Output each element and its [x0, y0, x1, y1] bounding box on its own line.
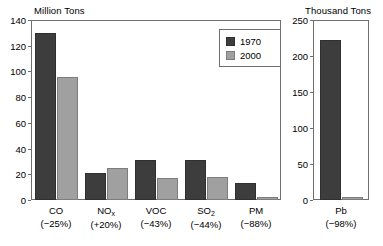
category-change: (−44%)	[181, 219, 231, 232]
category-label-VOC: VOC(−43%)	[131, 205, 181, 230]
y-tick-mark	[310, 20, 313, 21]
y-tick-mark	[310, 128, 313, 129]
y-tick-label: 100	[284, 123, 308, 134]
bar-CO-1970	[35, 33, 56, 200]
y-tick-label: 140	[2, 15, 26, 26]
category-change: (+20%)	[81, 219, 131, 232]
bar-NOx-2000	[107, 168, 128, 200]
category-change: (−88%)	[231, 218, 281, 231]
category-name: SO2	[181, 205, 231, 219]
category-label-CO: CO(−25%)	[31, 205, 81, 230]
y-tick-mark	[28, 97, 31, 98]
y-tick-label: 60	[2, 117, 26, 128]
category-change: (−43%)	[131, 218, 181, 231]
category-label-Pb: Pb(−98%)	[313, 205, 369, 230]
legend-swatch-2000-icon	[226, 51, 235, 60]
bar-Pb-1970	[320, 40, 341, 200]
emissions-chart-figure: Million Tons 020406080100120140 CO(−25%)…	[0, 0, 383, 246]
y-tick-mark	[310, 92, 313, 93]
y-tick-mark	[28, 20, 31, 21]
legend-item-1970: 1970	[226, 34, 280, 48]
y-tick-mark	[310, 164, 313, 165]
y-tick-mark	[310, 200, 313, 201]
legend-label-1970: 1970	[240, 36, 261, 47]
y-tick-mark	[28, 123, 31, 124]
y-tick-mark	[310, 56, 313, 57]
category-name: VOC	[131, 205, 181, 218]
bar-CO-2000	[57, 77, 78, 200]
y-tick-mark	[28, 174, 31, 175]
y-tick-label: 0	[284, 195, 308, 206]
y-tick-label: 40	[2, 143, 26, 154]
legend-label-2000: 2000	[240, 50, 261, 61]
category-name: NOx	[81, 205, 131, 219]
category-subscript: x	[111, 210, 115, 217]
category-label-PM: PM(−88%)	[231, 205, 281, 230]
y-tick-label: 80	[2, 92, 26, 103]
bar-VOC-2000	[157, 178, 178, 200]
y-tick-label: 150	[284, 87, 308, 98]
y-tick-label: 200	[284, 51, 308, 62]
y-tick-label: 50	[284, 159, 308, 170]
category-label-SO2: SO2(−44%)	[181, 205, 231, 231]
y-tick-mark	[28, 149, 31, 150]
legend: 1970 2000	[219, 29, 281, 67]
bar-PM-1970	[235, 183, 256, 200]
category-name: Pb	[313, 205, 369, 218]
legend-swatch-1970-icon	[226, 37, 235, 46]
bar-SO2-1970	[185, 160, 206, 200]
category-name: CO	[31, 205, 81, 218]
right-panel-axis-title: Thousand Tons	[305, 5, 371, 16]
category-label-NOx: NOx(+20%)	[81, 205, 131, 231]
y-tick-mark	[28, 200, 31, 201]
y-tick-mark	[28, 71, 31, 72]
legend-item-2000: 2000	[226, 48, 280, 62]
left-panel-axis-title: Million Tons	[34, 5, 85, 16]
category-subscript: 2	[211, 210, 215, 217]
bar-NOx-1970	[85, 173, 106, 200]
y-tick-mark	[28, 46, 31, 47]
y-tick-label: 100	[2, 66, 26, 77]
category-change: (−98%)	[313, 218, 369, 231]
y-tick-label: 0	[2, 195, 26, 206]
category-change: (−25%)	[31, 218, 81, 231]
y-tick-label: 120	[2, 40, 26, 51]
category-name: PM	[231, 205, 281, 218]
bar-Pb-2000	[342, 197, 363, 200]
bar-SO2-2000	[207, 177, 228, 200]
y-tick-label: 250	[284, 15, 308, 26]
bar-VOC-1970	[135, 160, 156, 200]
y-tick-label: 20	[2, 169, 26, 180]
bar-PM-2000	[257, 197, 278, 200]
